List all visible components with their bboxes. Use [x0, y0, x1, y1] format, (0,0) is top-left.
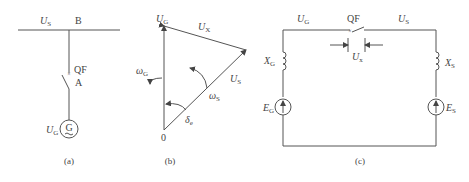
delta-arc: [166, 104, 186, 110]
panel-c-equivalent-circuit: × UG QF US Ux XG XS EG ES (c): [262, 13, 456, 166]
qf-switch: [352, 27, 364, 32]
xg-inductor: [283, 52, 286, 70]
xg-label: XG: [263, 55, 275, 68]
ux-label: UX: [198, 21, 210, 34]
bus-label: B: [75, 15, 82, 26]
delta-label: δe: [185, 114, 193, 127]
origin-label: 0: [161, 132, 166, 143]
panel-b-phasor: UG UX US ωG ωS δe 0 (b): [136, 13, 246, 166]
eg-label: EG: [262, 102, 274, 115]
ug-label: UG: [297, 13, 309, 26]
omega-g-arrow: [150, 78, 162, 84]
qf-label: QF: [347, 13, 360, 24]
us-phasor: [164, 50, 246, 130]
caption-b: (b): [165, 156, 176, 166]
omega-s-label: ωS: [209, 90, 220, 103]
caption-a: (a): [64, 156, 74, 166]
gen-voltage-label: UG: [46, 124, 58, 137]
tilde-icon: [65, 133, 73, 135]
omega-g-label: ωG: [136, 65, 148, 78]
svg-text:×: ×: [348, 28, 351, 34]
ug-label: UG: [156, 13, 168, 26]
bus-voltage-label: US: [40, 15, 51, 28]
es-label: ES: [445, 102, 456, 115]
svg-text:×: ×: [67, 71, 70, 77]
us-label: US: [230, 73, 241, 86]
breaker-switch: [62, 75, 69, 89]
breaker-label: QF: [74, 64, 87, 75]
caption-c: (c): [355, 156, 365, 166]
panel-a-single-line: × G US B QF A UG (a): [18, 15, 120, 166]
point-a-label: A: [75, 77, 83, 88]
xs-label: XS: [444, 57, 455, 70]
ux-label: Ux: [352, 51, 363, 64]
diagram-canvas: × G US B QF A UG (a) UG UX US ωG ωS δe 0…: [0, 0, 469, 182]
us-label: US: [398, 13, 409, 26]
generator-letter: G: [65, 122, 72, 133]
xs-inductor: [436, 52, 439, 70]
omega-s-arrow: [190, 68, 207, 88]
